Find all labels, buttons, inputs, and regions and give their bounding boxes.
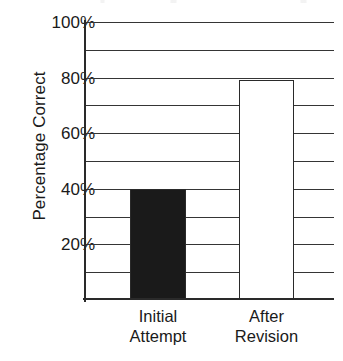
gridline-30 [84,217,334,218]
gridline-70 [84,105,334,106]
gridline-60 [84,133,334,134]
x-axis-spine [83,298,334,300]
y-axis-spine [84,20,86,302]
bar-1 [239,80,294,300]
gridline-20 [84,244,334,245]
bar-chart: Percentage Correct 100% 80% 60% 40% 20% … [0,0,343,361]
gridline-50 [84,161,334,162]
bar-0 [130,189,186,300]
gridline-80 [84,78,334,79]
gridline-10 [84,272,334,273]
x-category-label-after-revision: After Revision [197,306,337,346]
gridline-40 [84,189,334,190]
gridline-100 [84,22,334,23]
plot-area [84,22,334,300]
gridline-90 [84,50,334,51]
